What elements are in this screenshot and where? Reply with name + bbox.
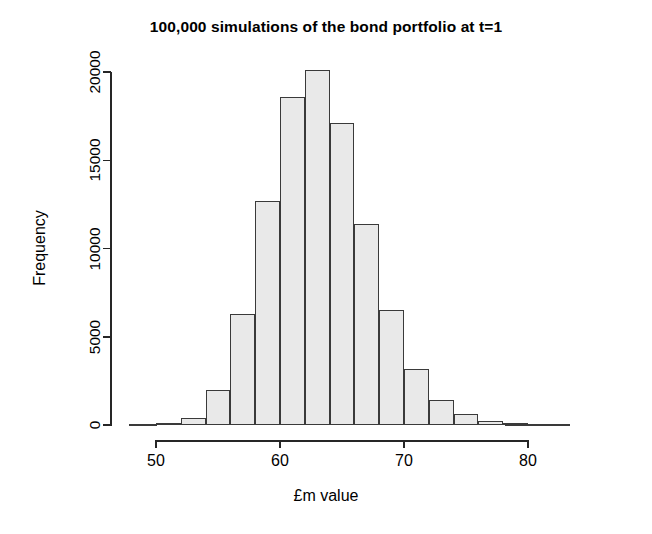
y-axis-tick-label: 5000 [86, 320, 104, 354]
x-axis-tick [527, 440, 529, 448]
x-axis-tick [403, 440, 405, 448]
x-axis-tick-label: 50 [147, 452, 165, 470]
histogram-bar [230, 314, 255, 425]
histogram-bar [181, 418, 206, 425]
x-axis-line [156, 440, 528, 442]
histogram-bar [478, 421, 503, 425]
y-axis-title: Frequency [31, 210, 49, 286]
histogram-bar [206, 390, 231, 425]
histogram-bar [255, 201, 280, 425]
x-axis-title: £m value [0, 487, 652, 505]
histogram-bar [503, 423, 528, 425]
histogram-bar [330, 123, 355, 425]
x-axis-tick [279, 440, 281, 448]
histogram-bar [156, 423, 181, 425]
histogram-figure: 100,000 simulations of the bond portfoli… [0, 0, 652, 534]
histogram-bar [454, 414, 479, 425]
plot-area [110, 60, 590, 425]
histogram-bar [379, 310, 404, 425]
y-axis-tick-label: 20000 [86, 50, 104, 93]
histogram-bar [429, 400, 454, 425]
x-axis-tick-label: 80 [519, 452, 537, 470]
x-axis-tick-label: 70 [395, 452, 413, 470]
histogram-bar [404, 369, 429, 425]
y-axis-tick-label: 10000 [86, 227, 104, 270]
x-axis-tick-label: 60 [271, 452, 289, 470]
histogram-bars [110, 60, 590, 425]
y-axis-tick-label: 15000 [86, 139, 104, 182]
chart-title: 100,000 simulations of the bond portfoli… [0, 18, 652, 36]
x-axis-tick [155, 440, 157, 448]
histogram-bar [280, 97, 305, 425]
histogram-bar [305, 70, 330, 425]
y-axis-tick-label: 0 [86, 421, 104, 430]
histogram-bar [354, 224, 379, 425]
